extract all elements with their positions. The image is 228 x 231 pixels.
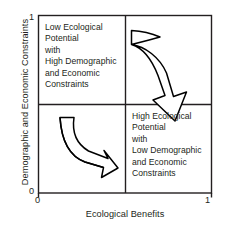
x-axis-tick-max: 1 xyxy=(205,195,210,205)
y-axis-tick-min: 0 xyxy=(29,186,34,196)
curved-arrow-down-icon xyxy=(132,31,187,122)
x-axis-label: Ecological Benefits xyxy=(38,209,212,220)
x-axis-tick-min: 0 xyxy=(35,195,40,205)
quadrant-bottom-right-label: High Ecological Potential with Low Demog… xyxy=(132,111,212,179)
y-axis-tick-max: 1 xyxy=(29,12,34,22)
quadrant-top-left-label: Low Ecological Potential with High Demog… xyxy=(45,22,123,90)
y-axis-label: Demographic and Economic Constraints xyxy=(20,7,30,197)
curved-arrow-right-icon xyxy=(60,118,118,178)
quadrant-diagram-figure: Demographic and Economic Constraints Eco… xyxy=(0,0,228,231)
